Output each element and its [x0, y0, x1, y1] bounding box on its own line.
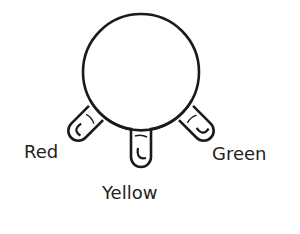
yellow-lamp-icon	[131, 128, 151, 167]
yellow-label: Yellow	[102, 184, 157, 202]
red-label: Red	[24, 143, 58, 161]
green-label: Green	[212, 145, 267, 163]
indicator-diagram: Red Green Yellow	[0, 0, 300, 234]
